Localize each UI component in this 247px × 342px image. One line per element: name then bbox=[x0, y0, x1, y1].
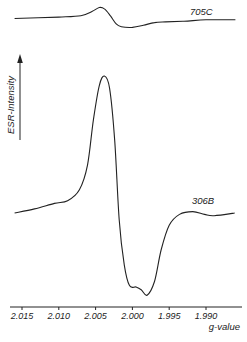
y-axis: ESR-Intensity bbox=[5, 54, 23, 140]
series-layer bbox=[15, 7, 236, 295]
x-tick-label: 2.005 bbox=[83, 311, 108, 321]
x-tick-label: 1.990 bbox=[195, 311, 218, 321]
esr-chart: ESR-Intensity 2.0152.0102.0052.0001.9951… bbox=[0, 0, 247, 342]
series-line-306b bbox=[15, 76, 235, 295]
x-axis: 2.0152.0102.0052.0001.9951.990 g-value bbox=[10, 307, 242, 332]
series-label-705c: 705C bbox=[190, 6, 213, 17]
x-tick-label: 2.000 bbox=[120, 311, 144, 321]
series-label-306b: 306B bbox=[192, 195, 215, 206]
x-tick-label: 2.015 bbox=[10, 311, 35, 321]
x-tick-label: 1.995 bbox=[158, 311, 182, 321]
y-axis-arrowhead-icon bbox=[17, 54, 23, 63]
y-axis-label: ESR-Intensity bbox=[5, 75, 16, 134]
x-tick-label: 2.010 bbox=[47, 311, 71, 321]
x-axis-label: g-value bbox=[209, 321, 240, 332]
